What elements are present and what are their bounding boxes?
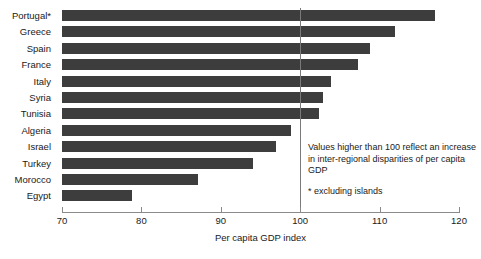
category-label: Italy: [0, 74, 56, 90]
bar-row: [62, 24, 459, 40]
bar: [62, 10, 435, 21]
category-label: Morocco: [0, 172, 56, 188]
category-label: Syria: [0, 90, 56, 106]
bar-row: [62, 123, 459, 139]
bar-row: [62, 90, 459, 106]
bar: [62, 59, 358, 70]
x-tick: [459, 207, 460, 213]
category-label: France: [0, 57, 56, 73]
bar: [62, 125, 291, 136]
bar-row: [62, 106, 459, 122]
x-tick: [380, 207, 381, 213]
category-axis-labels: Portugal*GreeceSpainFranceItalySyriaTuni…: [0, 8, 56, 205]
bar: [62, 174, 198, 185]
x-axis-line: [62, 212, 459, 213]
x-tick-label: 70: [57, 215, 68, 226]
category-label: Egypt: [0, 188, 56, 204]
x-tick: [221, 207, 222, 213]
annotation-footnote: * excluding islands: [308, 186, 476, 196]
bar: [62, 108, 319, 119]
category-label: Israel: [0, 139, 56, 155]
x-tick-label: 80: [136, 215, 147, 226]
bar-row: [62, 74, 459, 90]
x-axis-title: Per capita GDP index: [62, 232, 459, 243]
bar: [62, 43, 370, 54]
bar: [62, 26, 395, 37]
bar: [62, 76, 331, 87]
x-tick-label: 110: [372, 215, 387, 226]
bar: [62, 141, 276, 152]
category-label: Portugal*: [0, 8, 56, 24]
plot-area: [62, 8, 459, 207]
x-tick-label: 100: [292, 215, 308, 226]
reference-line-100: [300, 8, 301, 213]
bar-row: [62, 8, 459, 24]
category-label: Turkey: [0, 156, 56, 172]
category-label: Algeria: [0, 123, 56, 139]
x-tick: [141, 207, 142, 213]
x-tick-label: 90: [216, 215, 227, 226]
bar: [62, 190, 132, 201]
category-label: Greece: [0, 24, 56, 40]
annotation-note: Values higher than 100 reflect an increa…: [308, 142, 476, 177]
bar-row: [62, 57, 459, 73]
x-tick: [300, 207, 301, 213]
x-tick: [62, 207, 63, 213]
bar-chart: Portugal*GreeceSpainFranceItalySyriaTuni…: [0, 0, 481, 259]
x-tick-label: 120: [451, 215, 467, 226]
category-label: Spain: [0, 41, 56, 57]
bar-row: [62, 41, 459, 57]
category-label: Tunisia: [0, 106, 56, 122]
bar: [62, 92, 323, 103]
bar: [62, 158, 253, 169]
